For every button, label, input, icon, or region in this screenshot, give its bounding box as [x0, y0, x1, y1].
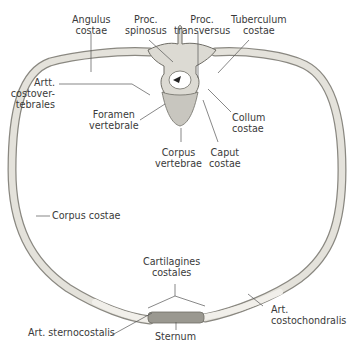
- sternum-shape: [148, 312, 204, 323]
- label-line: vertebrae: [155, 158, 202, 169]
- label-artt-costovertebrales: Artt. costover- tebrales: [10, 77, 55, 110]
- label-corpus-costae: Corpus costae: [52, 210, 120, 221]
- label-line: costales: [143, 267, 200, 278]
- label-line: Proc.: [174, 14, 230, 25]
- label-line: Corpus costae: [52, 210, 120, 221]
- vertebra: [148, 26, 216, 127]
- label-line: costover-: [10, 88, 55, 99]
- rib-cage-diagram: Angulus costae Proc. spinosus Proc. tran…: [0, 0, 354, 353]
- label-proc-spinosus: Proc. spinosus: [125, 14, 167, 36]
- label-line: tebrales: [10, 99, 55, 110]
- label-line: costae: [231, 25, 287, 36]
- label-line: Cartilagines: [143, 256, 200, 267]
- label-collum-costae: Collum costae: [232, 112, 265, 134]
- label-line: Sternum: [155, 331, 196, 342]
- label-line: costae: [72, 25, 111, 36]
- label-line: vertebrale: [89, 120, 139, 131]
- label-line: costae: [209, 158, 241, 169]
- label-line: Angulus: [72, 14, 111, 25]
- label-line: Corpus: [155, 147, 202, 158]
- label-line: Caput: [209, 147, 241, 158]
- anatomy-illustration: [0, 0, 354, 353]
- label-line: spinosus: [125, 25, 167, 36]
- label-corpus-vertebrae: Corpus vertebrae: [155, 147, 202, 169]
- label-art-sternocostalis: Art. sternocostalis: [28, 327, 115, 338]
- rib-right: [205, 52, 342, 318]
- label-foramen-vertebrale: Foramen vertebrale: [89, 109, 139, 131]
- label-line: Tuberculum: [231, 14, 287, 25]
- label-line: transversus: [174, 25, 230, 36]
- label-line: Proc.: [125, 14, 167, 25]
- label-line: Art. sternocostalis: [28, 327, 115, 338]
- label-tuberculum-costae: Tuberculum costae: [231, 14, 287, 36]
- label-line: Art.: [271, 304, 346, 315]
- label-line: Collum: [232, 112, 265, 123]
- label-line: Foramen: [89, 109, 139, 120]
- label-art-costochondralis: Art. costochondralis: [271, 304, 346, 326]
- label-line: costochondralis: [271, 315, 346, 326]
- label-caput-costae: Caput costae: [209, 147, 241, 169]
- label-proc-transversus: Proc. transversus: [174, 14, 230, 36]
- label-angulus-costae: Angulus costae: [72, 14, 111, 36]
- label-sternum: Sternum: [155, 331, 196, 342]
- label-line: costae: [232, 123, 265, 134]
- label-line: Artt.: [10, 77, 55, 88]
- label-cartilagines-costales: Cartilagines costales: [143, 256, 200, 278]
